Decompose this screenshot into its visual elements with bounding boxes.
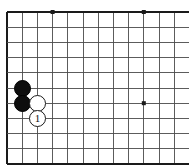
star-point xyxy=(142,101,146,105)
star-point xyxy=(51,10,55,14)
go-board-diagram: 1 xyxy=(0,0,189,168)
stone-white: 1 xyxy=(29,110,46,127)
stone-black xyxy=(14,80,31,97)
stone-move-number: 1 xyxy=(30,111,45,126)
star-point xyxy=(142,10,146,14)
